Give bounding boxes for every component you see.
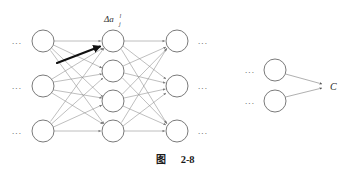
middle-layer-node-2	[102, 60, 124, 82]
left-layer-node-3	[32, 120, 54, 142]
middle-layer-node-3	[102, 90, 124, 112]
edge-m3-r2	[124, 89, 166, 98]
left-layer-nodes	[32, 30, 54, 142]
ellipsis-right-1: ...	[198, 36, 208, 46]
edge-l3-m1	[51, 48, 105, 122]
ellipsis-right-3: ...	[198, 126, 208, 136]
middle-layer-node-1	[102, 30, 124, 52]
right-layer-nodes	[166, 30, 188, 142]
edges-middle-to-right	[122, 41, 168, 131]
ellipsis-left-2: ...	[12, 81, 22, 91]
caption-prefix: 图	[156, 154, 166, 165]
ellipsis-left-1: ...	[12, 36, 22, 46]
left-ellipsis-group: ... ... ...	[12, 36, 22, 136]
middle-layer-node-4	[102, 120, 124, 142]
edge-m1-r3	[122, 50, 168, 125]
cost-label: C	[330, 81, 337, 92]
right-layer-node-2	[166, 75, 188, 97]
right-layer-node-1	[166, 30, 188, 52]
network-diagram-canvas: ... ... ... ... ... ... Δa l j ... ... C	[0, 0, 351, 173]
ellipsis-cost-1: ...	[245, 65, 255, 75]
figure-2-8: ... ... ... ... ... ... Δa l j ... ... C	[0, 0, 351, 173]
ellipsis-cost-2: ...	[245, 96, 255, 106]
ellipsis-left-3: ...	[12, 126, 22, 136]
edge-cost-node-1	[286, 74, 323, 84]
edge-m2-r2	[124, 73, 166, 83]
caption-number: 2-8	[181, 154, 195, 165]
figure-caption: 图 2-8	[0, 151, 351, 166]
cost-input-node-2	[264, 90, 286, 112]
left-layer-node-2	[32, 75, 54, 97]
right-layer-node-3	[166, 120, 188, 142]
cost-diagram: ... ... C	[245, 59, 337, 112]
middle-layer-nodes	[102, 30, 124, 142]
left-layer-node-1	[32, 30, 54, 52]
edge-l2-m3	[54, 90, 103, 98]
ellipsis-right-2: ...	[198, 81, 208, 91]
delta-activation-subscript: j	[118, 21, 121, 27]
edge-m4-r1	[122, 48, 168, 123]
delta-activation-superscript: l	[120, 13, 122, 19]
cost-input-node-1	[264, 59, 286, 81]
right-ellipsis-group: ... ... ...	[198, 36, 208, 136]
delta-activation-label: Δa l j	[103, 13, 122, 27]
delta-activation-symbol: Δa	[103, 14, 114, 24]
edge-cost-node-2	[286, 88, 323, 97]
edge-l2-m2	[54, 74, 103, 82]
perturbation-arrow	[57, 47, 100, 64]
